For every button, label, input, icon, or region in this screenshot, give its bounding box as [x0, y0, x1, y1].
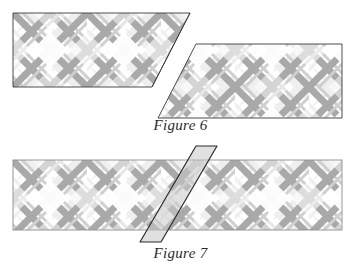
figure-6-upper-band: [0, 0, 361, 273]
figure-page: Figure 6 Figure 7: [0, 0, 361, 273]
figures-canvas: [0, 0, 361, 273]
figure-6-caption: Figure 6: [0, 117, 361, 134]
figure-7-caption: Figure 7: [0, 245, 361, 262]
figure-6-group: [0, 0, 361, 273]
